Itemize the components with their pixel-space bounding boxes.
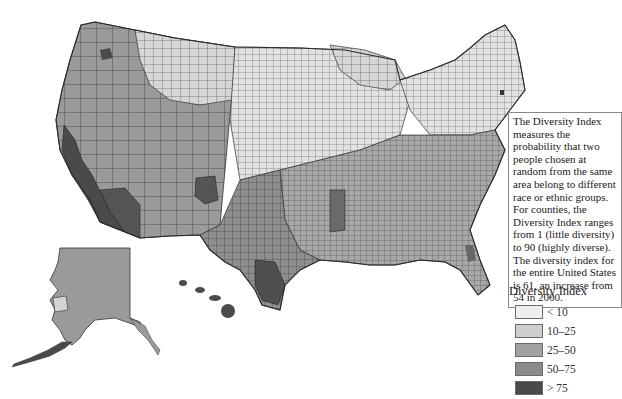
legend-label: 10–25 [547,325,576,337]
diversity-index-description: The Diversity Index measures the probabi… [508,112,622,308]
region-mississippi-delta-dark [330,190,345,232]
description-text: The Diversity Index measures the probabi… [513,115,616,303]
legend-swatch [515,381,543,395]
legend-item: 10–25 [515,322,620,341]
legend-swatch [515,324,543,338]
aleutian-islands [12,342,72,367]
hawaii [179,280,235,318]
legend-item: 50–75 [515,359,620,378]
legend-label: 50–75 [547,363,576,375]
alaska-panhandle [130,318,160,355]
legend-label: 25–50 [547,344,576,356]
legend-item: > 75 [515,378,620,397]
region-northeast [400,25,525,135]
hawaii-kauai [179,280,187,286]
legend-swatch [515,343,543,357]
legend-label: > 75 [547,382,568,394]
legend-swatch [515,362,543,376]
alaska-light-county [53,296,68,312]
hawaii-oahu [195,287,205,293]
legend-item: 25–50 [515,341,620,360]
legend-title: Diversity Index [509,284,620,299]
hawaii-maui [209,295,221,301]
alaska [12,248,160,367]
hawaii-big-island [221,304,235,318]
legend-label: < 10 [547,306,568,318]
legend-item: < 10 [515,303,620,322]
region-nyc-dark [500,90,504,95]
legend: Diversity Index < 10 10–25 25–50 50–75 >… [508,284,620,397]
legend-swatch [515,305,543,319]
